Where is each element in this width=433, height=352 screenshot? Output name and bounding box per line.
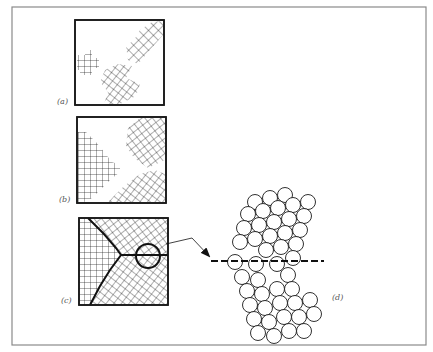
panel-a-label: (a) — [57, 97, 68, 106]
panel-b-label: (b) — [59, 195, 70, 204]
arrow-right-icon — [166, 238, 209, 256]
panel-c: (c) — [61, 218, 168, 305]
panel-d: (d) — [211, 188, 343, 344]
panel-c-label: (c) — [61, 296, 72, 305]
panel-a: (a) — [57, 20, 164, 106]
atom-cluster-upper — [233, 188, 316, 258]
grain-formation-diagram: (a) (b) (c) — [0, 0, 433, 352]
panel-b: (b) — [59, 117, 166, 204]
outer-frame — [12, 7, 426, 345]
atom-cluster-lower — [235, 268, 322, 344]
panel-d-label: (d) — [332, 293, 343, 302]
